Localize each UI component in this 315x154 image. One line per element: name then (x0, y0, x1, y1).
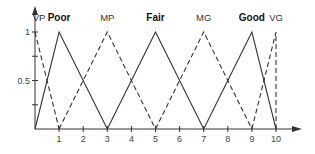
series-label-vg: VG (269, 12, 283, 23)
x-tick-label: 2 (81, 134, 86, 144)
series-lines (35, 32, 276, 129)
x-tick-label: 9 (249, 134, 254, 144)
y-tick-label: 0.5 (17, 76, 30, 86)
series-line-mg (156, 32, 252, 129)
x-tick-label: 1 (57, 134, 62, 144)
x-tick-label: 8 (225, 134, 230, 144)
series-label-vp: VP (33, 12, 46, 23)
y-tick-label: 1 (25, 27, 30, 37)
x-tick-label: 7 (201, 134, 206, 144)
x-tick-label: 4 (129, 134, 134, 144)
x-axis-arrow-icon (292, 126, 302, 132)
series-line-good (204, 32, 276, 129)
series-label-mp: MP (100, 12, 114, 23)
x-tick-label: 10 (271, 134, 281, 144)
x-tick-label: 6 (177, 134, 182, 144)
membership-function-chart: 0.51 12345678910 VPPoorMPFairMGGoodVG (0, 0, 315, 154)
series-line-mp (59, 32, 155, 129)
x-tick-label: 3 (105, 134, 110, 144)
series-labels: VPPoorMPFairMGGoodVG (33, 12, 283, 23)
series-line-fair (107, 32, 203, 129)
series-label-poor: Poor (48, 12, 71, 23)
series-label-good: Good (239, 12, 265, 23)
series-line-poor (35, 32, 107, 129)
series-label-fair: Fair (146, 12, 164, 23)
x-tick-label: 5 (153, 134, 158, 144)
series-label-mg: MG (196, 12, 211, 23)
